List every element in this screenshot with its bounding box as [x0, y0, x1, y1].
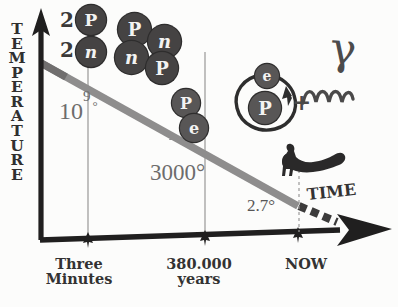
- temperature-annotation-3000: 3000°: [150, 160, 205, 186]
- gamma-symbol: γ: [328, 22, 359, 75]
- tick-label-line: 380.000: [141, 256, 257, 271]
- x-tick-label-three-minutes: Three Minutes: [24, 256, 134, 287]
- x-axis: [40, 214, 392, 246]
- particle-proton: P: [76, 5, 106, 35]
- particle-neutron: n: [76, 37, 106, 67]
- particle-electron: e: [255, 64, 279, 88]
- annotation-degree-symbol: °: [93, 98, 98, 113]
- tick-label-line: Three: [24, 256, 134, 271]
- x-tick-label-380000-years: 380.000 years: [141, 256, 257, 287]
- cosmic-temperature-diagram: T E M P E R A T U R E TIME Three Minutes…: [0, 0, 398, 307]
- proton-count-label: 2: [60, 8, 74, 32]
- temperature-annotation-1e9: 109°: [59, 97, 98, 125]
- temperature-annotation-2point7: 2.7°: [247, 196, 275, 216]
- dinosaur-icon: [282, 144, 345, 176]
- y-axis: [32, 8, 50, 240]
- particle-neutron: n: [115, 41, 148, 74]
- particle-proton: P: [146, 52, 178, 84]
- particle-proton: P: [249, 92, 281, 124]
- temperature-curve-dashed-extension: [299, 206, 337, 222]
- particle-proton: P: [172, 89, 200, 117]
- neutron-count-label: 2: [60, 38, 74, 62]
- plus-sign: +: [292, 88, 311, 115]
- tick-label-line: NOW: [258, 256, 354, 271]
- y-axis-label: T E M P E R A T U R E: [4, 22, 30, 182]
- y-axis-label-letter: E: [11, 168, 23, 183]
- tick-label-line: Minutes: [24, 271, 134, 286]
- x-tick-label-now: NOW: [258, 256, 354, 271]
- particle-electron: e: [180, 114, 208, 142]
- annotation-base: 10: [59, 98, 83, 124]
- annotation-exponent: 9: [83, 88, 91, 104]
- tick-label-line: years: [141, 271, 257, 286]
